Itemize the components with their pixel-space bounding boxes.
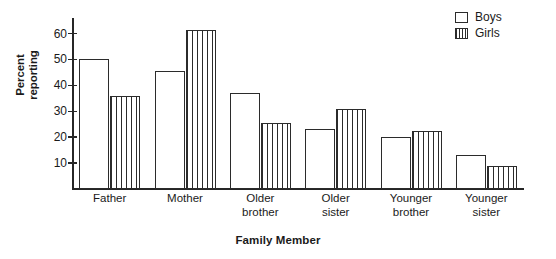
y-tick-label: 20 bbox=[54, 131, 67, 143]
open-square-icon bbox=[455, 12, 468, 23]
y-tick-label: 60 bbox=[54, 28, 67, 40]
bar-boys bbox=[230, 93, 260, 189]
bar-girls bbox=[261, 123, 291, 189]
x-axis-label: Older brother bbox=[223, 192, 298, 219]
bar-girls bbox=[110, 96, 140, 189]
legend-label: Girls bbox=[475, 27, 500, 39]
bar-boys bbox=[381, 137, 411, 189]
bar-group bbox=[381, 18, 442, 189]
bar-boys bbox=[305, 129, 335, 189]
x-axis-label: Father bbox=[72, 192, 147, 206]
bar-group bbox=[155, 18, 216, 189]
bar-girls bbox=[487, 166, 517, 189]
y-tick-label: 40 bbox=[54, 79, 67, 91]
x-axis-label: Older sister bbox=[298, 192, 373, 219]
bar-boys bbox=[79, 59, 109, 189]
bar-group bbox=[79, 18, 140, 189]
bar-group bbox=[456, 18, 517, 189]
y-tick-label: 30 bbox=[54, 105, 67, 117]
bar-boys bbox=[155, 71, 185, 189]
legend-item: Girls bbox=[455, 26, 502, 40]
bar-girls bbox=[186, 30, 216, 189]
plot-area: 102030405060 bbox=[72, 18, 524, 189]
bar-group bbox=[305, 18, 366, 189]
bar-chart: Percent reporting 102030405060 FatherMot… bbox=[0, 0, 556, 259]
x-axis-label: Younger brother bbox=[373, 192, 448, 219]
bar-group bbox=[230, 18, 291, 189]
legend-item: Boys bbox=[455, 10, 502, 24]
bar-girls bbox=[412, 131, 442, 189]
x-axis-title: Family Member bbox=[0, 234, 556, 246]
y-tick-label: 10 bbox=[54, 157, 67, 169]
y-tick-label: 50 bbox=[54, 53, 67, 65]
striped-square-icon bbox=[455, 28, 468, 39]
x-axis-category-labels: FatherMotherOlder brotherOlder sisterYou… bbox=[72, 192, 524, 232]
bar-girls bbox=[336, 109, 366, 189]
legend-label: Boys bbox=[475, 11, 502, 23]
bars-layer bbox=[72, 18, 524, 189]
x-axis-label: Younger sister bbox=[449, 192, 524, 219]
bar-boys bbox=[456, 155, 486, 189]
x-axis-label: Mother bbox=[147, 192, 222, 206]
legend: BoysGirls bbox=[455, 10, 502, 42]
y-axis-title: Percent reporting bbox=[14, 15, 40, 135]
